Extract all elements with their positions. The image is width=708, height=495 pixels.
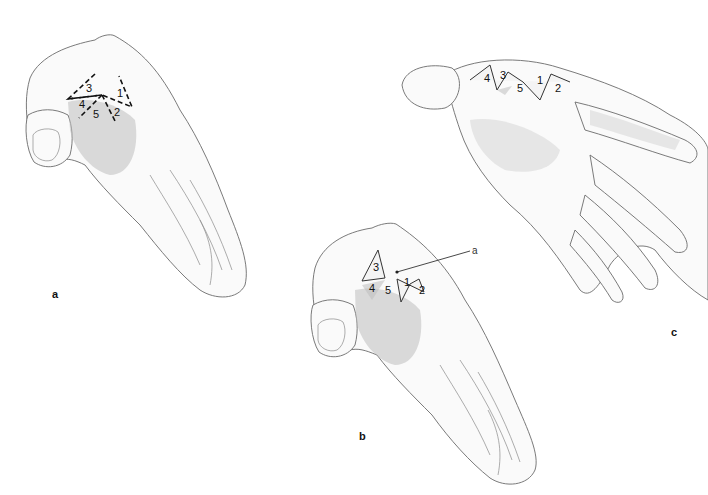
- flap-label-3: 3: [500, 69, 506, 81]
- flap-label-3: 3: [373, 261, 379, 273]
- figure-canvas: 3 1 4 5 2 a 3 1 4 5 2: [0, 0, 708, 495]
- panel-a-hand-illustration: 3 1 4 5 2: [26, 35, 246, 297]
- panel-b-hand-illustration: a 3 1 4 5 2: [311, 223, 536, 484]
- flap-label-2: 2: [114, 106, 120, 118]
- flap-label-4: 4: [484, 72, 490, 84]
- flap-label-5: 5: [517, 82, 523, 94]
- panel-label-a: a: [52, 288, 58, 300]
- flap-label-1: 1: [117, 87, 123, 99]
- flap-label-4: 4: [369, 282, 375, 294]
- flap-label-3: 3: [86, 82, 92, 94]
- panel-label-c: c: [671, 326, 677, 338]
- flap-label-1: 1: [404, 276, 410, 288]
- flap-label-5: 5: [385, 284, 391, 296]
- flap-label-5: 5: [93, 108, 99, 120]
- flap-label-4: 4: [79, 98, 85, 110]
- flap-label-2: 2: [555, 82, 561, 94]
- flap-label-1: 1: [537, 74, 543, 86]
- panel-label-b: b: [359, 430, 366, 442]
- pointer-label-a: a: [472, 245, 478, 256]
- panel-c-hand-illustration: 4 3 5 1 2: [402, 60, 708, 302]
- flap-label-2: 2: [419, 284, 425, 296]
